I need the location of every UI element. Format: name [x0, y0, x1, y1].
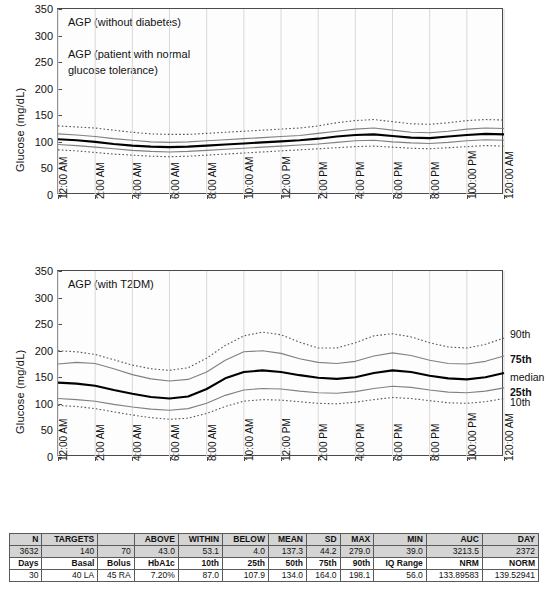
- table-cell: 25th: [223, 558, 269, 570]
- table-cell: 43.0: [134, 546, 178, 558]
- chart1-canvas: [58, 9, 504, 195]
- table-cell: 56.0: [374, 570, 427, 582]
- chart2-ytick: 150: [35, 371, 58, 383]
- chart2-ytick: 300: [35, 292, 58, 304]
- legend-90th: 90th: [510, 328, 530, 340]
- table-cell: NRM: [426, 558, 482, 570]
- table-cell: MAX: [340, 534, 374, 546]
- table-cell: Days: [10, 558, 42, 570]
- chart2-y-axis-label: Glucose (mg/dL): [14, 350, 26, 434]
- table-cell: WITHIN: [178, 534, 222, 546]
- table-cell: NORM: [482, 558, 538, 570]
- chart1-ytick: 350: [35, 3, 58, 15]
- table-cell: 133.89583: [426, 570, 482, 582]
- table-cell: Basal: [42, 558, 98, 570]
- table-cell: 140: [42, 546, 98, 558]
- chart1-ytick: 100: [35, 136, 58, 148]
- table-cell: 44.2: [307, 546, 341, 558]
- table-cell: 164.0: [307, 570, 341, 582]
- table-cell: 3213.5: [426, 546, 482, 558]
- table-cell: 45 RA: [98, 570, 134, 582]
- statistics-table-body: NTARGETSABOVEWITHINBELOWMEANSDMAXMINAUCD…: [10, 534, 539, 582]
- legend-10th: 10th: [510, 396, 530, 408]
- chart1-y-axis-label: Glucose (mg/dL): [14, 88, 26, 172]
- table-cell: 134.0: [268, 570, 306, 582]
- table-cell: 139.52941: [482, 570, 538, 582]
- chart1-xtick: 120:00 AM: [504, 151, 515, 199]
- table-cell: 75th: [307, 558, 341, 570]
- chart2-canvas: [58, 271, 504, 457]
- table-cell: 4.0: [223, 546, 269, 558]
- table-cell: [98, 534, 134, 546]
- agp-chart-with-t2dm: Glucose (mg/dL) AGP (with T2DM) 05010015…: [0, 262, 548, 520]
- table-cell: 3632: [10, 546, 42, 558]
- table-cell: N: [10, 534, 42, 546]
- table-cell: AUC: [426, 534, 482, 546]
- table-cell: TARGETS: [42, 534, 98, 546]
- table-cell: 30: [10, 570, 42, 582]
- chart2-ytick: 350: [35, 265, 58, 277]
- table-cell: 10th: [178, 558, 222, 570]
- statistics-table: NTARGETSABOVEWITHINBELOWMEANSDMAXMINAUCD…: [9, 533, 539, 582]
- table-cell: 40 LA: [42, 570, 98, 582]
- table-cell: DAY: [482, 534, 538, 546]
- legend-75th: 75th: [510, 353, 532, 365]
- table-cell: MIN: [374, 534, 427, 546]
- table-cell: 87.0: [178, 570, 222, 582]
- chart2-ytick: 0: [47, 451, 58, 463]
- chart2-xtick: 120:00 AM: [504, 413, 515, 461]
- table-row: 36321407043.053.14.0137.344.2279.039.032…: [10, 546, 539, 558]
- table-cell: HbA1c: [134, 558, 178, 570]
- chart2-ytick: 50: [41, 424, 58, 436]
- table-cell: MEAN: [268, 534, 306, 546]
- chart1-ytick: 50: [41, 162, 58, 174]
- chart2-ytick: 100: [35, 398, 58, 410]
- chart1-ytick: 250: [35, 56, 58, 68]
- table-cell: 107.9: [223, 570, 269, 582]
- chart1-ytick: 200: [35, 83, 58, 95]
- chart1-ytick: 300: [35, 30, 58, 42]
- table-cell: 39.0: [374, 546, 427, 558]
- table-cell: 90th: [340, 558, 374, 570]
- table-cell: 279.0: [340, 546, 374, 558]
- table-cell: ABOVE: [134, 534, 178, 546]
- table-cell: IQ Range: [374, 558, 427, 570]
- table-row: DaysBasalBolusHbA1c10th25th50th75th90thI…: [10, 558, 539, 570]
- legend-median: median: [510, 371, 544, 383]
- table-cell: SD: [307, 534, 341, 546]
- chart1-plot-area: AGP (without diabetes) AGP (patient with…: [57, 8, 503, 194]
- table-cell: 7.20%: [134, 570, 178, 582]
- chart2-plot-area: AGP (with T2DM) 05010015020025030035012:…: [57, 270, 503, 456]
- table-cell: 50th: [268, 558, 306, 570]
- table-cell: 137.3: [268, 546, 306, 558]
- agp-chart-without-diabetes: Glucose (mg/dL) AGP (without diabetes) A…: [0, 0, 548, 262]
- table-cell: 70: [98, 546, 134, 558]
- chart1-ytick: 150: [35, 109, 58, 121]
- chart1-ytick: 0: [47, 189, 58, 201]
- table-cell: 198.1: [340, 570, 374, 582]
- table-cell: Bolus: [98, 558, 134, 570]
- table-row: 3040 LA45 RA7.20%87.0107.9134.0164.0198.…: [10, 570, 539, 582]
- chart2-ytick: 200: [35, 345, 58, 357]
- table-cell: 53.1: [178, 546, 222, 558]
- table-cell: BELOW: [223, 534, 269, 546]
- chart2-ytick: 250: [35, 318, 58, 330]
- table-cell: 2372: [482, 546, 538, 558]
- table-row: NTARGETSABOVEWITHINBELOWMEANSDMAXMINAUCD…: [10, 534, 539, 546]
